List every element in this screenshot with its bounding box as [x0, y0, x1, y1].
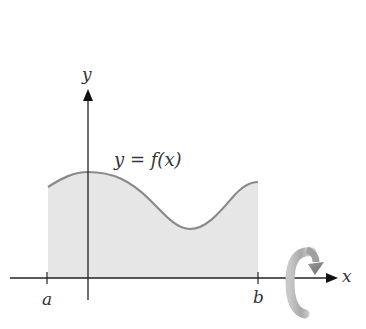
y-axis-arrow-icon	[83, 89, 93, 101]
y-axis-label: y	[82, 66, 92, 83]
right-bound-label: b	[253, 289, 264, 306]
curve-label: y = f(x)	[114, 151, 182, 169]
rotation-arrow-icon	[290, 250, 324, 314]
diagram-canvas	[0, 0, 366, 329]
left-bound-label: a	[42, 291, 52, 308]
revolution-diagram: y x y = f(x) a b	[0, 0, 366, 329]
x-axis-arrow-icon	[326, 273, 338, 283]
area-under-curve	[48, 172, 258, 278]
x-axis-label: x	[342, 268, 352, 285]
